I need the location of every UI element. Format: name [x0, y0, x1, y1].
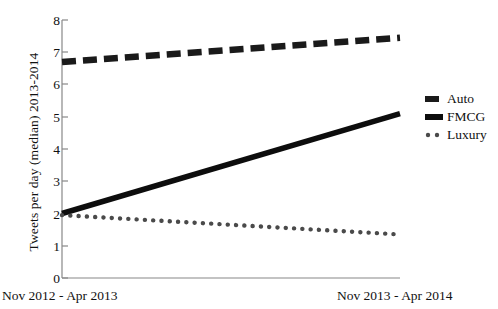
- series-line-auto: [62, 38, 400, 62]
- legend-swatch-dashed: [424, 92, 444, 106]
- series-line-luxury: [62, 215, 400, 234]
- legend-item-fmcg[interactable]: FMCG: [424, 108, 487, 126]
- legend-item-luxury[interactable]: Luxury: [424, 126, 487, 144]
- legend-item-auto[interactable]: Auto: [424, 90, 487, 108]
- plot-area: [0, 0, 498, 309]
- x-axis-caption-start: Nov 2012 - Apr 2013: [2, 288, 118, 304]
- legend-swatch-dotted: [424, 128, 444, 142]
- legend-label-fmcg: FMCG: [447, 109, 485, 125]
- series-line-fmcg: [62, 114, 400, 214]
- chart-legend: Auto FMCG Luxury: [424, 90, 487, 144]
- chart-canvas: Tweets per day (median) 2013-2014 8 7 6 …: [0, 0, 498, 309]
- legend-label-auto: Auto: [447, 91, 474, 107]
- legend-swatch-solid: [424, 110, 444, 124]
- x-axis-caption-end: Nov 2013 - Apr 2014: [337, 288, 453, 304]
- legend-label-luxury: Luxury: [447, 127, 487, 143]
